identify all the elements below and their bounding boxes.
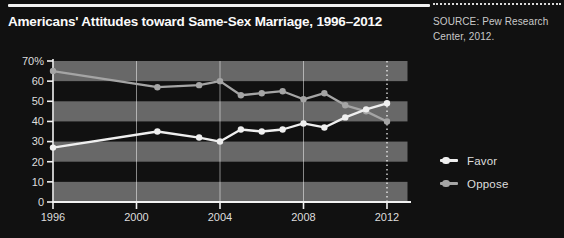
line-chart: 010203040506070%19962000200420082012 (0, 0, 564, 238)
favor-point-2009 (321, 124, 327, 130)
oppose-point-2012 (384, 118, 390, 124)
y-tick-label-20: 20 (32, 156, 44, 168)
x-tick-label-2012: 2012 (375, 211, 399, 223)
legend-item-favor: Favor (440, 149, 508, 172)
oppose-dot-icon (442, 180, 450, 188)
oppose-point-2010 (342, 102, 348, 108)
x-tick-label-2000: 2000 (124, 211, 148, 223)
favor-point-2004 (217, 138, 223, 144)
favor-point-2005 (238, 126, 244, 132)
y-tick-label-10: 10 (32, 176, 44, 188)
oppose-point-1996 (50, 68, 56, 74)
legend-label-favor: Favor (467, 155, 497, 167)
x-tick-label-1996: 1996 (41, 211, 65, 223)
y-tick-label-50: 50 (32, 95, 44, 107)
oppose-point-2003 (196, 82, 202, 88)
legend: Favor Oppose (440, 149, 508, 195)
favor-point-2011 (363, 106, 369, 112)
favor-point-2010 (342, 114, 348, 120)
favor-point-2012 (384, 100, 390, 106)
y-tick-label-70: 70% (22, 55, 44, 67)
oppose-point-2006 (259, 90, 265, 96)
favor-dot-icon (442, 157, 450, 165)
favor-point-2008 (300, 120, 306, 126)
y-tick-label-40: 40 (32, 115, 44, 127)
oppose-point-2001 (154, 84, 160, 90)
favor-point-1996 (50, 144, 56, 150)
oppose-point-2007 (279, 88, 285, 94)
favor-point-2007 (279, 126, 285, 132)
oppose-point-2005 (238, 92, 244, 98)
oppose-line-marker-icon (440, 182, 458, 185)
favor-point-2003 (196, 134, 202, 140)
oppose-point-2009 (321, 90, 327, 96)
favor-point-2006 (259, 128, 265, 134)
oppose-point-2004 (217, 78, 223, 84)
figure: Americans' Attitudes toward Same-Sex Mar… (0, 0, 564, 238)
band-60-70 (54, 61, 408, 81)
y-tick-label-30: 30 (32, 135, 44, 147)
y-tick-label-0: 0 (38, 196, 44, 208)
legend-item-oppose: Oppose (440, 172, 508, 195)
favor-point-2001 (154, 128, 160, 134)
x-tick-label-2008: 2008 (291, 211, 315, 223)
x-tick-label-2004: 2004 (208, 211, 232, 223)
y-tick-label-60: 60 (32, 75, 44, 87)
band-20-30 (54, 142, 408, 162)
favor-line-marker-icon (440, 159, 458, 162)
band-0-10 (54, 182, 408, 202)
legend-label-oppose: Oppose (467, 178, 508, 190)
band-40-50 (54, 101, 408, 121)
oppose-point-2008 (300, 96, 306, 102)
